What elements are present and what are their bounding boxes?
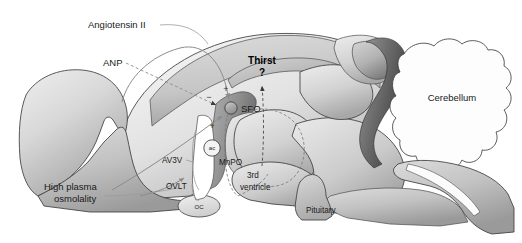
angiotensin-label: Angiotensin II bbox=[88, 19, 146, 30]
av3v-label: AV3V bbox=[162, 156, 183, 165]
osmolality-label-line1: High plasma bbox=[44, 181, 98, 192]
cerebellum-label: Cerebellum bbox=[428, 92, 477, 103]
osmolality-label-line2: osmolality bbox=[54, 193, 96, 204]
oc-label: OC bbox=[195, 204, 205, 210]
anp-minus-sign: − bbox=[206, 92, 211, 102]
cerebellum-structure bbox=[390, 39, 511, 169]
pituitary-label: Pituitary bbox=[306, 206, 336, 215]
third-ventricle-label-line2: ventricle bbox=[240, 183, 271, 192]
ac-label: ac bbox=[209, 145, 215, 151]
thirst-question-mark: ? bbox=[259, 67, 265, 78]
sfo-label: SFO bbox=[241, 103, 261, 114]
brain-diagram-figure: + − + Angiotensin II ANP Thirst ? SFO Ce… bbox=[0, 0, 522, 243]
thirst-label: Thirst bbox=[248, 55, 276, 66]
sfo-structure bbox=[225, 102, 237, 114]
ovlt-label: OVLT bbox=[166, 182, 187, 191]
osmolality-plus-sign: + bbox=[209, 121, 214, 131]
angiotensin-plus-sign: + bbox=[223, 84, 228, 94]
mnpo-label: MnPO bbox=[219, 158, 242, 167]
anp-label: ANP bbox=[103, 57, 123, 68]
third-ventricle-label-line1: 3rd bbox=[247, 171, 259, 180]
